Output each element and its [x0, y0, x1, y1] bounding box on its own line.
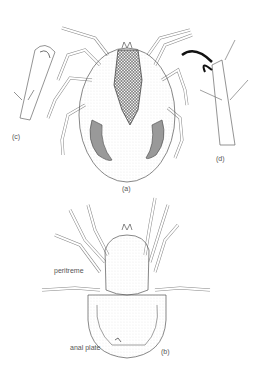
panel-c-label: (c)	[12, 133, 20, 140]
panel-d-tarsus	[182, 40, 248, 145]
panel-a-dorsal-mite	[48, 28, 192, 182]
peritreme-annotation: peritreme	[54, 267, 84, 274]
panel-a-label: (a)	[122, 185, 131, 192]
panel-b-label: (b)	[161, 348, 170, 355]
panel-b-ventral-mite	[42, 198, 210, 358]
panel-c-chelicera	[14, 45, 55, 120]
anal-plate-annotation: anal plate	[70, 344, 100, 351]
panel-d-label: (d)	[216, 155, 225, 162]
